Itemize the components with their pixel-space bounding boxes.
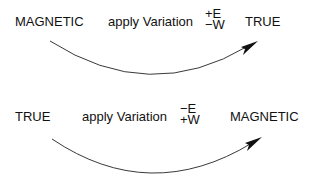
arrows-layer bbox=[0, 0, 313, 180]
curved-arrow-icon bbox=[50, 41, 258, 74]
curved-arrow-icon bbox=[52, 137, 262, 173]
